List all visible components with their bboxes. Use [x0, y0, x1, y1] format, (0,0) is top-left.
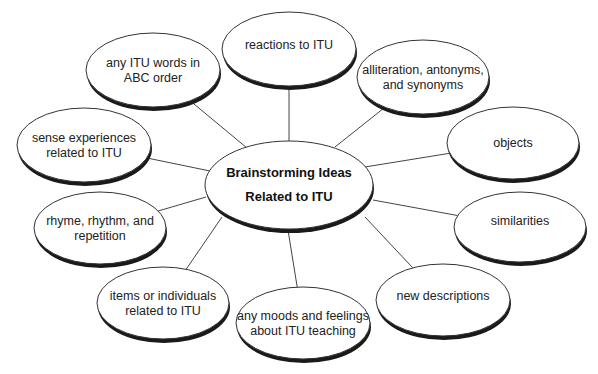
- center-title-line-1: Brainstorming Ideas: [226, 165, 352, 180]
- node-label-line: objects: [493, 136, 533, 150]
- node-objects: objects: [447, 107, 580, 183]
- node-new-descriptions: new descriptions: [376, 264, 511, 340]
- connector-line-moods: [288, 230, 297, 287]
- center-title-line-2: Related to ITU: [245, 189, 332, 204]
- node-label-line: any moods and feelings: [237, 309, 369, 323]
- connector-line-alliteration: [335, 107, 385, 147]
- connector-line-abc-order: [190, 101, 247, 148]
- node-label-line: new descriptions: [396, 289, 489, 303]
- node-label-line: and synonyms: [383, 78, 464, 92]
- node-rhyme: rhyme, rhythm, andrepetition: [34, 192, 167, 268]
- node-label-line: reactions to ITU: [245, 38, 333, 52]
- connector-line-similarities: [373, 200, 458, 216]
- connector-line-rhyme: [158, 197, 206, 211]
- node-label-line: ABC order: [124, 71, 182, 85]
- node-label-line: related to ITU: [125, 304, 201, 318]
- node-reactions: reactions to ITU: [222, 12, 357, 90]
- node-similarities: similarities: [454, 192, 587, 266]
- center-node-ellipse: [205, 141, 373, 229]
- node-label-line: related to ITU: [46, 146, 122, 160]
- node-items: items or individualsrelated to ITU: [97, 267, 230, 343]
- node-label-line: repetition: [74, 229, 125, 243]
- connector-line-sense: [147, 158, 210, 171]
- node-label-line: similarities: [491, 214, 549, 228]
- node-abc-order: any ITU words inABC order: [86, 33, 221, 111]
- node-label-line: alliteration, antonyms,: [362, 63, 484, 77]
- brainstorm-diagram: reactions to ITUany ITU words inABC orde…: [0, 0, 598, 374]
- connector-line-objects: [365, 153, 450, 167]
- node-label-line: sense experiences: [32, 131, 136, 145]
- node-label-line: items or individuals: [110, 289, 216, 303]
- center-node: Brainstorming Ideas Related to ITU: [205, 141, 374, 233]
- node-alliteration: alliteration, antonyms,and synonyms: [357, 40, 490, 118]
- node-sense: sense experiencesrelated to ITU: [17, 108, 152, 186]
- connector-line-new-descriptions: [365, 217, 413, 268]
- node-moods: any moods and feelingsabout ITU teaching: [236, 287, 371, 363]
- node-label-line: any ITU words in: [106, 56, 200, 70]
- connector-line-items: [186, 217, 222, 269]
- node-label-line: rhyme, rhythm, and: [46, 214, 154, 228]
- node-label-line: about ITU teaching: [250, 324, 356, 338]
